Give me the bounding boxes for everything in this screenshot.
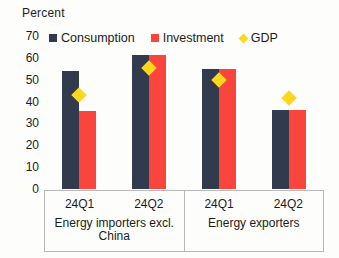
category-group: 24Q124Q2Energy exporters [184, 191, 324, 251]
bar-investment [149, 55, 166, 189]
bar-investment [219, 69, 236, 189]
y-axis-tick-label: 50 [26, 74, 39, 86]
bar-investment [289, 110, 306, 189]
category-axis-frame: 24Q124Q2Energy importers excl. China24Q1… [44, 190, 324, 252]
y-axis-tick-label: 0 [32, 183, 39, 195]
y-axis-tick-label: 60 [26, 52, 39, 64]
bar-cluster [114, 36, 184, 189]
bar-group [44, 36, 184, 189]
bar-consumption [202, 69, 219, 189]
category-sublabel: 24Q2 [114, 197, 183, 211]
bar-investment [79, 111, 96, 189]
category-group: 24Q124Q2Energy importers excl. China [45, 191, 184, 251]
bar-consumption [132, 55, 149, 189]
category-group-label: Energy importers excl. China [45, 217, 184, 251]
bar-group [184, 36, 324, 189]
category-sublabel: 24Q2 [254, 197, 323, 211]
bar-cluster [254, 36, 324, 189]
category-sublabel-row: 24Q124Q2 [45, 191, 184, 217]
y-axis-title: Percent [22, 6, 65, 20]
y-axis-tick-label: 10 [26, 161, 39, 173]
y-axis-tick-label: 70 [26, 30, 39, 42]
category-group-label: Energy exporters [185, 217, 324, 251]
category-sublabel: 24Q1 [45, 197, 114, 211]
gdp-diamond-marker [281, 91, 297, 107]
category-sublabel: 24Q1 [185, 197, 254, 211]
plot-area: 706050403020100 [44, 36, 324, 189]
y-axis-tick-label: 30 [26, 117, 39, 129]
bar-cluster [184, 36, 254, 189]
category-sublabel-row: 24Q124Q2 [185, 191, 324, 217]
y-axis-tick-label: 40 [26, 96, 39, 108]
bar-consumption [272, 110, 289, 189]
bar-cluster [44, 36, 114, 189]
y-axis-tick-label: 20 [26, 139, 39, 151]
bar-groups [44, 36, 324, 189]
bar-chart: Percent Consumption Investment GDP 70605… [0, 0, 339, 258]
